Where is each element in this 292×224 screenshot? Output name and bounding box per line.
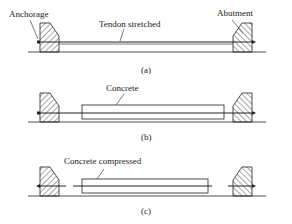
left-abutment-block	[40, 93, 59, 122]
anchorage-label: Anchorage	[9, 9, 48, 19]
right-anchor-icon	[252, 111, 256, 115]
left-anchor-icon	[36, 184, 40, 188]
right-anchor-icon	[252, 184, 256, 188]
left-abutment-block	[40, 167, 59, 196]
tendon-label: Tendon stretched	[99, 19, 161, 29]
left-anchor-icon	[37, 112, 40, 115]
caption-b: (b)	[141, 132, 152, 142]
caption-c: (c)	[141, 206, 151, 216]
right-anchor-icon	[252, 40, 256, 44]
tendon-leader	[120, 29, 124, 41]
caption-a: (a)	[141, 65, 151, 75]
panel-b: Concrete (b)	[28, 83, 266, 142]
concrete-label: Concrete	[106, 83, 138, 93]
left-abutment-block	[40, 23, 59, 52]
panel-a: Anchorage Tendon stretched Abutment (a)	[9, 8, 266, 75]
left-anchor-icon	[37, 41, 40, 44]
concrete-member	[82, 105, 224, 119]
right-abutment-block	[233, 23, 252, 52]
right-abutment-block	[233, 93, 252, 122]
panel-c: Concrete compressed (c)	[28, 156, 266, 216]
abutment-label: Abutment	[217, 8, 253, 18]
concrete-leader	[116, 94, 124, 105]
concrete-compressed-label: Concrete compressed	[64, 156, 142, 166]
right-abutment-block	[233, 167, 252, 196]
concrete-compressed-leader	[97, 169, 104, 179]
anchorage-leader	[30, 20, 38, 39]
prestressing-diagram: Anchorage Tendon stretched Abutment (a) …	[0, 0, 292, 224]
